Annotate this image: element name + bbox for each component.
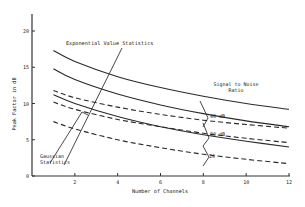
peak-factor-chart: 05101520 24681012 Exponential Value Stat… [0, 0, 305, 207]
exp-leader-line [64, 48, 122, 165]
y-tick-label: 10 [23, 101, 29, 107]
y-ticks: 05101520 [23, 28, 35, 179]
chart-canvas: 05101520 24681012 Exponential Value Stat… [0, 0, 305, 207]
y-tick-label: 0 [26, 173, 29, 179]
annotation-leaders [50, 48, 209, 166]
gauss-label-2: Statistics [40, 159, 70, 165]
snr-20-label: 20 [209, 153, 215, 159]
x-tick-label: 8 [202, 179, 205, 185]
snr-30-label: 30 dB [210, 131, 225, 137]
y-tick-label: 15 [23, 64, 29, 70]
curves [53, 51, 289, 164]
snr-40-label: 40 dB [210, 113, 225, 119]
y-axis-label: Peak Factor in dB [11, 77, 17, 130]
snr-label-2: Ratio [228, 87, 243, 93]
exp-label: Exponential Value Statistics [66, 40, 153, 47]
y-tick-label: 5 [26, 137, 29, 143]
exponential-curve [53, 69, 289, 127]
x-tick-label: 10 [243, 179, 249, 185]
y-tick-label: 20 [23, 28, 29, 34]
x-tick-label: 2 [73, 179, 76, 185]
x-tick-label: 12 [286, 179, 292, 185]
x-ticks: 24681012 [73, 173, 292, 185]
x-tick-label: 6 [159, 179, 162, 185]
x-tick-label: 4 [116, 179, 119, 185]
x-axis-label: Number of Channels [132, 188, 188, 194]
